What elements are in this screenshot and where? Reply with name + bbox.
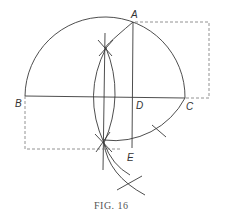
perpendicular-ade	[132, 22, 133, 148]
dashed-rect-right	[135, 22, 209, 98]
figure-caption: FIG. 16	[94, 200, 129, 211]
geometry-figure: A B C D E FIG. 16	[0, 0, 226, 220]
lower-arc-2	[104, 143, 145, 195]
label-e: E	[127, 152, 134, 163]
lens-arc-right	[104, 22, 133, 143]
label-d: D	[136, 100, 143, 111]
tick-top-2	[99, 40, 113, 56]
label-c: C	[186, 101, 194, 112]
dashed-rect-left	[25, 96, 120, 149]
label-a: A	[130, 9, 138, 20]
cross-mark-low	[117, 176, 142, 190]
label-b: B	[15, 98, 22, 109]
diameter-bc	[25, 96, 185, 98]
